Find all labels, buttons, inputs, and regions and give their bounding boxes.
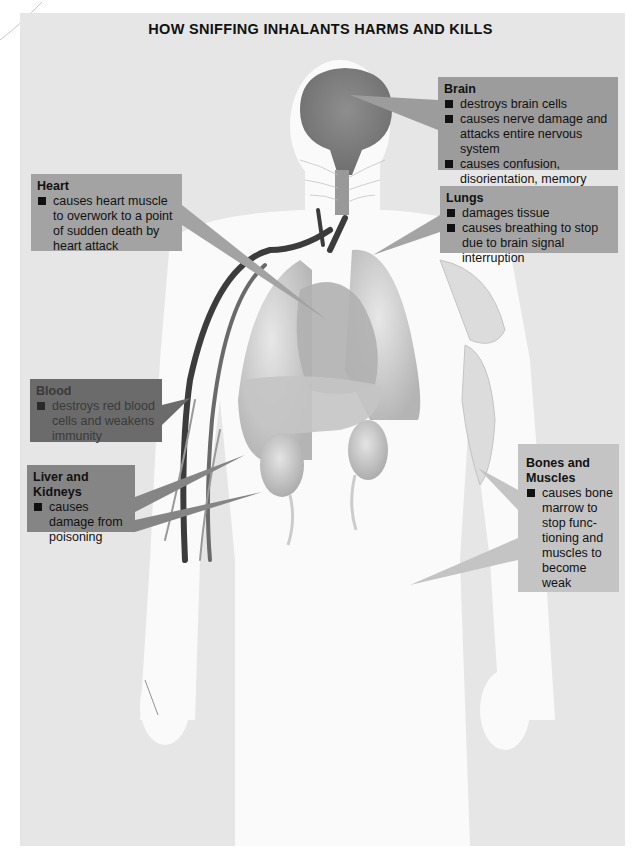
callout-bones-muscles: Bones and Muscles causes bone marrow to … xyxy=(518,444,619,592)
callout-brain: Brain destroys brain cells causes nerve … xyxy=(438,77,618,170)
callout-heart: Heart causes heart muscle to overwork to… xyxy=(31,174,182,251)
callout-heading: Lungs xyxy=(446,191,612,206)
spinal-cord xyxy=(335,170,349,215)
callout-heading: Bones and Muscles xyxy=(526,456,613,486)
right-kidney xyxy=(348,420,388,480)
callout-heading: Blood xyxy=(36,384,156,399)
bullet-item: destroys brain cells xyxy=(444,97,612,112)
callout-heading: Heart xyxy=(37,179,176,194)
effects-list: destroys red blood cells and weakens imm… xyxy=(36,399,156,444)
bullet-item: causes heart muscle to overwork to a poi… xyxy=(37,194,176,254)
effects-list: causes heart muscle to overwork to a poi… xyxy=(37,194,176,254)
bullet-item: causes damage from poisoning xyxy=(33,500,129,545)
callout-lungs: Lungs damages tissue causes breathing to… xyxy=(440,186,618,253)
effects-list: causes bone marrow to stop func-tioning … xyxy=(526,486,613,591)
callout-heading: Brain xyxy=(444,82,612,97)
callout-liver-kidneys: Liver and Kidneys causes damage from poi… xyxy=(27,465,135,532)
bullet-item: causes bone marrow to stop func-tioning … xyxy=(526,486,613,591)
bullet-item: damages tissue xyxy=(446,206,612,221)
diagram-title: HOW SNIFFING INHALANTS HARMS AND KILLS xyxy=(0,21,641,37)
right-hand xyxy=(480,670,530,750)
bullet-item: destroys red blood cells and weakens imm… xyxy=(36,399,156,444)
callout-heading: Liver and Kidneys xyxy=(33,470,129,500)
effects-list: causes damage from poisoning xyxy=(33,500,129,545)
effects-list: damages tissue causes breathing to stop … xyxy=(446,206,612,266)
callout-blood: Blood destroys red blood cells and weake… xyxy=(30,379,162,442)
left-kidney xyxy=(260,433,304,497)
bullet-item: causes nerve damage and attacks entire n… xyxy=(444,112,612,157)
left-hand xyxy=(140,665,190,745)
bullet-item: causes breathing to stop due to brain si… xyxy=(446,221,612,266)
